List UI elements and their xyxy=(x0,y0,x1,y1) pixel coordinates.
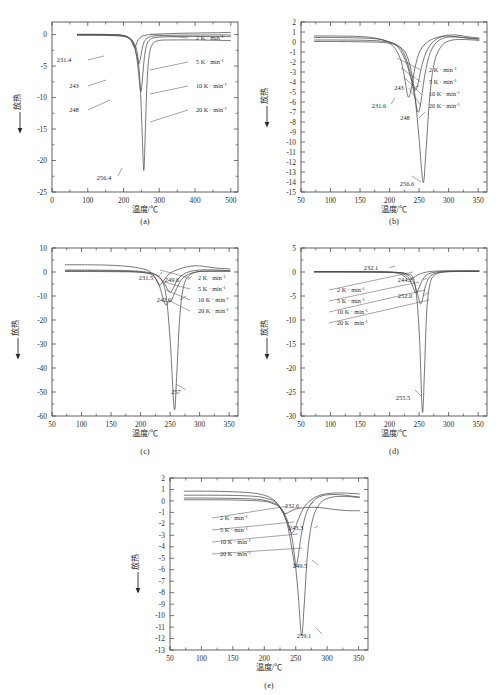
peak-annotation: 256.4 xyxy=(97,174,112,181)
y-tick-label: -3 xyxy=(159,531,165,540)
y-tick-label: -30 xyxy=(286,412,296,421)
y-tick-label: -20 xyxy=(37,156,47,165)
x-tick-label: 100 xyxy=(82,196,93,205)
y-tick-label: -40 xyxy=(37,364,47,373)
y-tick-label: -10 xyxy=(155,611,165,620)
peak-annotation: 231.6 xyxy=(372,102,386,109)
exotherm-arrow-head xyxy=(136,588,141,594)
legend-entry: 20 K · min-1 xyxy=(198,307,230,314)
panel-caption: (a) xyxy=(140,217,150,226)
x-tick-label: 150 xyxy=(227,654,238,663)
y-tick-label: -25 xyxy=(286,388,296,397)
x-tick-label: 200 xyxy=(118,196,129,205)
chart-panel-e: 50100150200250300350210-1-2-3-4-5-6-7-8-… xyxy=(120,458,380,695)
chart-panel-d: 5010015020025030035050-5-10-15-20-25-302… xyxy=(249,228,499,460)
y-tick-label: 10 xyxy=(40,244,48,253)
peak-annotation: 244.2 xyxy=(398,276,412,283)
peak-annotation: 249.6 xyxy=(165,276,179,283)
peak-annotation: 248 xyxy=(69,106,79,113)
panel-caption: (b) xyxy=(389,217,399,226)
legend-entry: 2 K · min-1 xyxy=(196,34,224,41)
y-tick-label: -12 xyxy=(286,158,296,167)
annotation-leader xyxy=(158,272,162,277)
exotherm-arrow-head xyxy=(16,354,21,360)
x-axis-title: 温度/℃ xyxy=(132,204,158,214)
x-tick-label: 250 xyxy=(414,196,425,205)
x-tick-label: 150 xyxy=(106,420,117,429)
x-axis-title: 温度/℃ xyxy=(256,662,282,672)
y-axis-title: 放热 xyxy=(130,554,140,570)
dsc-curve-4 xyxy=(314,39,479,182)
peak-annotation: 249.5 xyxy=(293,562,307,569)
x-tick-label: 100 xyxy=(325,196,336,205)
y-tick-label: -9 xyxy=(290,128,296,137)
y-tick-label: -15 xyxy=(37,125,47,134)
peak-annotation: 243 xyxy=(394,84,404,91)
y-tick-label: -6 xyxy=(159,565,165,574)
x-tick-label: 300 xyxy=(322,654,333,663)
annotation-leader xyxy=(314,526,318,528)
peak-annotation: 232.6 xyxy=(285,502,299,509)
x-tick-label: 500 xyxy=(225,196,236,205)
y-tick-label: -20 xyxy=(286,364,296,373)
legend-entry: 2 K · min-1 xyxy=(429,66,457,73)
legend-leader xyxy=(168,300,190,311)
y-tick-label: -14 xyxy=(286,178,296,187)
peak-annotation: 242.6 xyxy=(157,296,171,303)
x-tick-label: 200 xyxy=(384,420,395,429)
x-axis-title: 温度/℃ xyxy=(381,428,407,438)
annotation-leader xyxy=(391,98,395,104)
x-tick-label: 350 xyxy=(473,420,484,429)
y-tick-label: 2 xyxy=(292,18,296,27)
x-tick-label: 350 xyxy=(224,420,235,429)
chart-panel-a: 01002003004005000-5-10-15-20-25231.42432… xyxy=(0,0,250,230)
y-axis-title: 放热 xyxy=(259,88,269,104)
y-tick-label: -5 xyxy=(290,292,296,301)
peak-annotation: 232.1 xyxy=(364,264,378,271)
y-tick-label: -20 xyxy=(37,316,47,325)
x-tick-label: 200 xyxy=(135,420,146,429)
y-tick-label: -2 xyxy=(290,58,296,67)
annotation-leader xyxy=(118,168,122,176)
y-tick-label: 0 xyxy=(43,30,47,39)
annotation-leader xyxy=(389,266,395,268)
peak-annotation: 248 xyxy=(400,114,410,121)
y-tick-label: -25 xyxy=(37,188,47,197)
y-axis-title: 放热 xyxy=(10,320,20,336)
x-axis-title: 温度/℃ xyxy=(132,428,158,438)
y-tick-label: -10 xyxy=(286,138,296,147)
x-tick-label: 400 xyxy=(190,196,201,205)
annotation-leader xyxy=(88,56,104,60)
x-tick-label: 100 xyxy=(196,654,207,663)
x-tick-label: 50 xyxy=(297,196,305,205)
y-tick-label: 1 xyxy=(292,28,296,37)
legend-leader xyxy=(150,86,188,94)
x-tick-label: 150 xyxy=(355,420,366,429)
y-tick-label: -11 xyxy=(155,623,165,632)
y-tick-label: -7 xyxy=(290,108,296,117)
y-tick-label: -6 xyxy=(290,98,296,107)
x-tick-label: 50 xyxy=(48,420,56,429)
y-tick-label: -8 xyxy=(159,588,165,597)
legend-leader xyxy=(150,62,188,70)
peak-annotation: 257 xyxy=(171,388,181,395)
y-tick-label: -30 xyxy=(37,340,47,349)
dsc-curve-4 xyxy=(77,35,231,170)
y-tick-label: 1 xyxy=(161,485,165,494)
x-tick-label: 300 xyxy=(443,196,454,205)
exotherm-arrow-head xyxy=(265,122,270,128)
y-axis-title: 放热 xyxy=(12,94,22,110)
legend-entry: 2 K · min-1 xyxy=(198,274,226,281)
peak-annotation: 231.5 xyxy=(139,274,153,281)
annotation-leader xyxy=(419,112,425,118)
y-tick-label: -10 xyxy=(37,93,47,102)
chart-panel-b: 50100150200250300350210-1-2-3-4-5-6-7-8-… xyxy=(249,0,499,230)
y-tick-label: -8 xyxy=(290,118,296,127)
x-tick-label: 300 xyxy=(443,420,454,429)
legend-entry: 2 K · min-1 xyxy=(337,286,365,293)
y-tick-label: 0 xyxy=(161,497,165,506)
legend-entry: 10 K · min-1 xyxy=(198,296,230,303)
annotation-leader xyxy=(316,628,322,634)
y-tick-label: -15 xyxy=(286,188,296,197)
y-tick-label: -5 xyxy=(159,554,165,563)
